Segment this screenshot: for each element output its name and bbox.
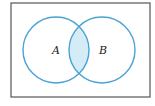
set-a-label: A xyxy=(51,44,60,57)
set-b-label: B xyxy=(98,44,107,57)
venn-diagram: A B xyxy=(0,0,155,106)
